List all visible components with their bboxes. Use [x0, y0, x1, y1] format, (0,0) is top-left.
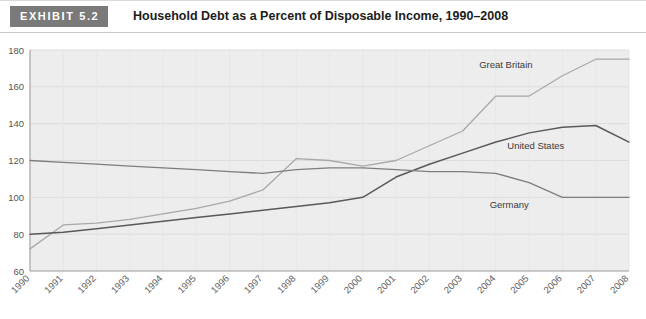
- x-axis-tick: 1991: [42, 273, 65, 296]
- x-axis-tick: 2008: [608, 273, 631, 296]
- x-axis-tick-label: 2005: [508, 273, 531, 296]
- y-axis-tick-label: 120: [8, 155, 24, 166]
- x-axis-tick-label: 1999: [308, 273, 331, 296]
- x-axis-tick: 2004: [475, 273, 498, 296]
- x-axis-tick-label: 2002: [408, 273, 431, 296]
- y-axis-tick-label: 80: [13, 229, 24, 240]
- x-axis-tick: 1999: [308, 273, 331, 296]
- x-axis-tick: 2002: [408, 273, 431, 296]
- x-axis-tick-label: 1993: [109, 273, 132, 296]
- x-axis-tick-label: 2004: [475, 273, 498, 296]
- x-axis-tick: 2007: [574, 273, 597, 296]
- x-axis-tick-label: 1998: [275, 273, 298, 296]
- x-axis-tick-label: 2000: [341, 273, 364, 296]
- x-axis-tick: 1998: [275, 273, 298, 296]
- chart-container: 6080100120140160180199019911992199319941…: [0, 33, 646, 319]
- y-axis-tick-label: 160: [8, 81, 24, 92]
- y-axis-tick-label: 140: [8, 118, 24, 129]
- x-axis-tick: 1996: [208, 273, 231, 296]
- x-axis-tick: 2006: [541, 273, 564, 296]
- exhibit-header: EXHIBIT 5.2 Household Debt as a Percent …: [0, 0, 646, 33]
- x-axis-tick-label: 1996: [208, 273, 231, 296]
- line-chart: 6080100120140160180199019911992199319941…: [0, 33, 646, 319]
- x-axis-tick: 1993: [109, 273, 132, 296]
- x-axis-tick-label: 1990: [9, 273, 32, 296]
- x-axis-tick-label: 1995: [175, 273, 198, 296]
- x-axis-tick-label: 2007: [574, 273, 597, 296]
- y-axis-tick-label: 180: [8, 45, 24, 56]
- x-axis-tick: 2005: [508, 273, 531, 296]
- x-axis-tick-label: 1994: [142, 273, 165, 296]
- x-axis-tick: 1990: [9, 273, 32, 296]
- x-axis-tick: 2003: [441, 273, 464, 296]
- series-label-great-britain: Great Britain: [479, 59, 532, 70]
- header-top-rule: [0, 0, 646, 1]
- x-axis-tick-label: 1997: [242, 273, 265, 296]
- x-axis-tick: 1994: [142, 273, 165, 296]
- series-label-united-states: United States: [507, 140, 564, 151]
- x-axis-tick-label: 2008: [608, 273, 631, 296]
- y-axis-tick-label: 100: [8, 192, 24, 203]
- x-axis-tick-label: 2003: [441, 273, 464, 296]
- x-axis-tick-label: 2001: [375, 273, 398, 296]
- x-axis-tick: 2001: [375, 273, 398, 296]
- exhibit-figure: EXHIBIT 5.2 Household Debt as a Percent …: [0, 0, 646, 319]
- x-axis-tick-label: 1991: [42, 273, 65, 296]
- x-axis-tick: 2000: [341, 273, 364, 296]
- x-axis-tick: 1997: [242, 273, 265, 296]
- series-label-germany: Germany: [490, 199, 529, 210]
- x-axis-tick: 1992: [75, 273, 98, 296]
- exhibit-badge: EXHIBIT 5.2: [10, 6, 108, 27]
- x-axis-tick-label: 2006: [541, 273, 564, 296]
- x-axis-tick: 1995: [175, 273, 198, 296]
- exhibit-title: Household Debt as a Percent of Disposabl…: [133, 9, 508, 23]
- x-axis-tick-label: 1992: [75, 273, 98, 296]
